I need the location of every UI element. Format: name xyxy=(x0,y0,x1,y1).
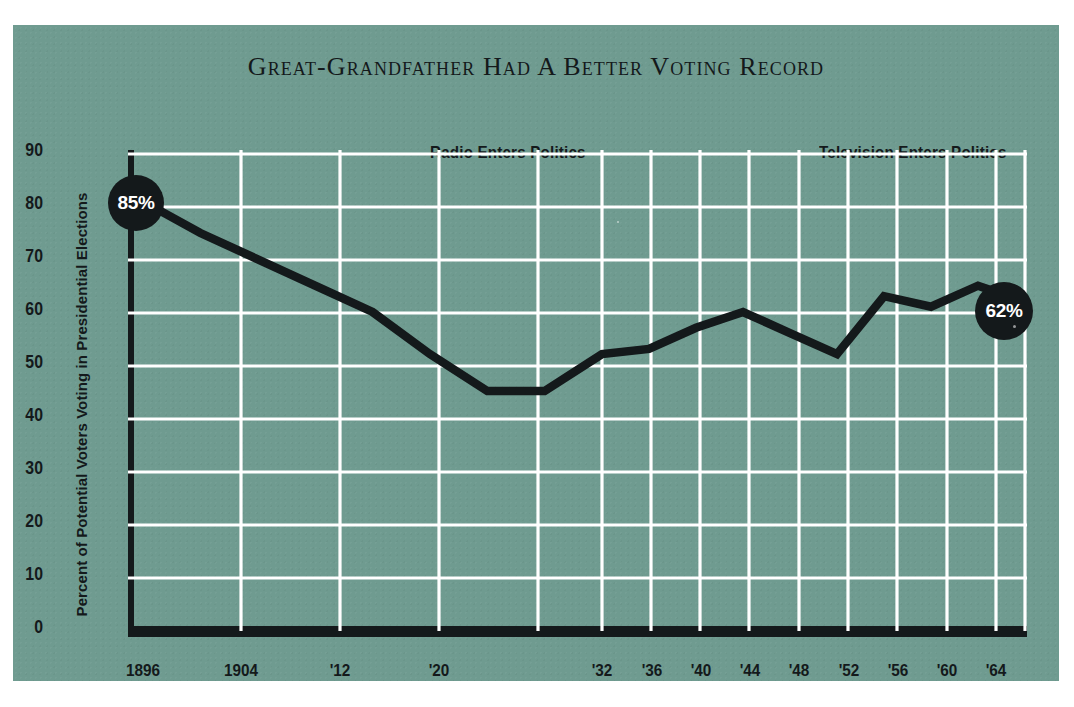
paper-speck xyxy=(617,221,619,223)
x-tick-1952: '52 xyxy=(839,661,860,681)
x-tick-1944: '44 xyxy=(740,661,761,681)
x-tick-1964: '64 xyxy=(986,661,1007,681)
line-chart-svg xyxy=(128,150,1027,631)
voter-turnout-line xyxy=(143,201,1025,391)
x-tick-1936: '36 xyxy=(642,661,663,681)
paper-speck xyxy=(1013,325,1016,328)
y-tick-50: 50 xyxy=(13,352,43,373)
x-tick-1948: '48 xyxy=(789,661,810,681)
y-axis-title: Percent of Potential Voters Voting in Pr… xyxy=(73,170,90,640)
y-tick-60: 60 xyxy=(13,299,43,320)
badge-start-value: 85% xyxy=(108,175,164,231)
y-tick-20: 20 xyxy=(13,511,43,532)
y-tick-10: 10 xyxy=(13,564,43,585)
plot-area xyxy=(128,150,1027,631)
y-tick-0: 0 xyxy=(13,617,43,638)
badge-end-value: 62% xyxy=(975,282,1033,340)
x-tick-1960: '60 xyxy=(937,661,958,681)
gridlines-vertical xyxy=(241,150,1025,631)
y-tick-40: 40 xyxy=(13,405,43,426)
x-tick-1912: '12 xyxy=(330,661,351,681)
y-tick-80: 80 xyxy=(13,193,43,214)
y-tick-70: 70 xyxy=(13,246,43,267)
x-tick-1940: '40 xyxy=(691,661,712,681)
y-tick-90: 90 xyxy=(13,140,43,161)
x-tick-1932: '32 xyxy=(592,661,613,681)
x-tick-1904: 1904 xyxy=(224,661,258,681)
x-tick-1896: 1896 xyxy=(126,661,160,681)
chart-card: Great-Grandfather Had A Better Voting Re… xyxy=(13,25,1059,681)
x-tick-1956: '56 xyxy=(888,661,909,681)
y-tick-30: 30 xyxy=(13,458,43,479)
page-title: Great-Grandfather Had A Better Voting Re… xyxy=(13,52,1059,82)
x-tick-1920: '20 xyxy=(429,661,450,681)
